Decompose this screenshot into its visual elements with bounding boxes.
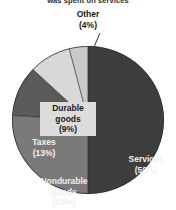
chart-caption: was spent on services [0,0,176,5]
slice-label-nondurable-goods-line3: (24%) [28,197,100,208]
slice-label-other-line1: Other [62,9,114,20]
slice-label-durable-goods-line3: (9%) [40,124,96,135]
slice-label-other: Other (4%) [62,9,114,30]
slice-label-durable-goods-line1: Durable [40,103,96,114]
slice-label-nondurable-goods-line2: goods [28,187,100,198]
slice-label-durable-goods: Durable goods (9%) [40,102,96,136]
slice-label-durable-goods-line2: goods [40,114,96,125]
pie-chart-figure: was spent on services Other (4%) [0,0,176,210]
slice-label-taxes-line2: (13%) [18,148,70,159]
slice-label-other-line2: (4%) [62,20,114,31]
pie-body: Durable goods (9%) Taxes (13%) Nondurabl… [12,46,164,196]
slice-label-services-line2: (50%) [116,165,176,176]
slice-label-taxes: Taxes (13%) [18,137,70,158]
slice-label-taxes-line1: Taxes [18,137,70,148]
slice-label-nondurable-goods-line1: Nondurable [28,176,100,187]
slice-label-nondurable-goods: Nondurable goods (24%) [28,176,100,208]
slice-label-services-line1: Services [116,154,176,165]
slice-label-services: Services (50%) [116,154,176,175]
